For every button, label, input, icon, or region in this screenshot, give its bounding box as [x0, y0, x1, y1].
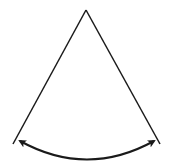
double-arrow-arc [20, 141, 154, 160]
left-radius-line [13, 10, 86, 144]
right-radius-line [86, 10, 160, 144]
sector-diagram [0, 0, 173, 168]
